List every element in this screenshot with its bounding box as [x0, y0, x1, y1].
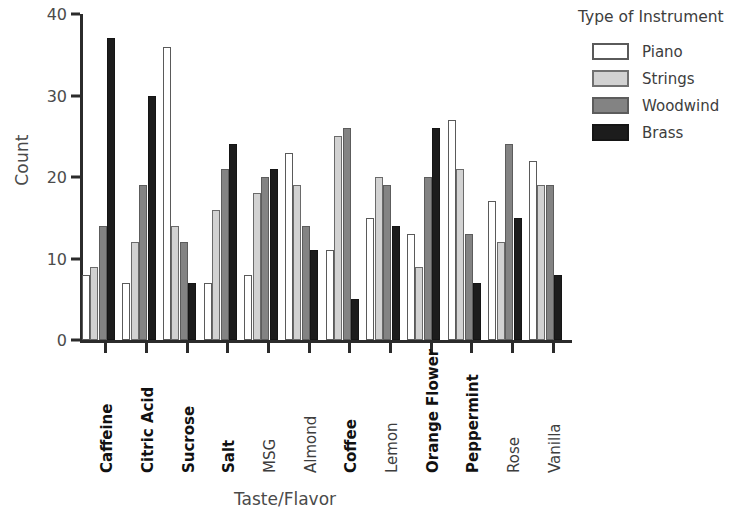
legend-title: Type of Instrument — [578, 8, 733, 26]
legend-swatch — [592, 124, 629, 141]
bar — [392, 226, 400, 340]
bar — [148, 96, 156, 341]
x-tick-mark — [348, 343, 351, 353]
x-tick-mark — [389, 343, 392, 353]
bar-group — [488, 14, 521, 340]
y-axis-title: Count — [12, 105, 32, 215]
bar — [473, 283, 481, 340]
bar — [383, 185, 391, 340]
y-tick-mark — [71, 339, 80, 342]
bar — [293, 185, 301, 340]
y-tick-label: 40 — [33, 5, 67, 24]
y-tick-mark — [71, 13, 80, 16]
x-tick-label: Salt — [220, 440, 238, 473]
bar — [448, 120, 456, 340]
x-tick-mark — [186, 343, 189, 353]
bar — [122, 283, 130, 340]
bar — [366, 218, 374, 340]
legend-label: Strings — [642, 70, 695, 88]
x-tick-label: Peppermint — [464, 374, 482, 473]
bar — [456, 169, 464, 340]
bar — [99, 226, 107, 340]
bar-group — [407, 14, 440, 340]
bar — [188, 283, 196, 340]
legend-entries: PianoStringsWoodwindBrass — [578, 38, 733, 146]
legend-swatch — [592, 43, 629, 60]
bar-group — [285, 14, 318, 340]
x-axis-line — [80, 340, 572, 343]
bar — [302, 226, 310, 340]
bar — [244, 275, 252, 340]
bar — [139, 185, 147, 340]
bar — [497, 242, 505, 340]
bar — [171, 226, 179, 340]
legend-swatch — [592, 97, 629, 114]
bar — [310, 250, 318, 340]
bar — [204, 283, 212, 340]
x-tick-mark — [104, 343, 107, 353]
legend-label: Piano — [642, 43, 683, 61]
x-tick-label: Orange Flower — [424, 349, 442, 473]
x-tick-label: Caffeine — [98, 404, 116, 473]
x-tick-mark — [470, 343, 473, 353]
bar — [554, 275, 562, 340]
bar-group — [326, 14, 359, 340]
bar — [424, 177, 432, 340]
legend-label: Woodwind — [642, 97, 719, 115]
legend-entry: Piano — [592, 38, 733, 65]
bar — [546, 185, 554, 340]
y-tick-label: 20 — [33, 168, 67, 187]
bar — [221, 169, 229, 340]
x-tick-mark — [145, 343, 148, 353]
x-tick-label: Rose — [505, 437, 523, 473]
x-tick-label: MSG — [261, 439, 279, 473]
bar — [537, 185, 545, 340]
bar — [82, 275, 90, 340]
x-tick-mark — [552, 343, 555, 353]
y-tick-mark — [71, 257, 80, 260]
bar-chart: Count 010203040 CaffeineCitric AcidSucro… — [0, 0, 733, 519]
legend: Type of Instrument PianoStringsWoodwindB… — [578, 8, 733, 146]
x-tick-mark — [308, 343, 311, 353]
y-tick-label: 0 — [33, 331, 67, 350]
bar — [505, 144, 513, 340]
legend-entry: Woodwind — [592, 92, 733, 119]
bar — [488, 201, 496, 340]
x-tick-label: Vanilla — [546, 424, 564, 474]
bar — [326, 250, 334, 340]
bar — [415, 267, 423, 340]
x-tick-label: Citric Acid — [139, 387, 157, 473]
bar — [514, 218, 522, 340]
bar-group — [244, 14, 277, 340]
legend-swatch — [592, 70, 629, 87]
x-tick-label: Lemon — [383, 422, 401, 473]
bar-group — [529, 14, 562, 340]
bar — [465, 234, 473, 340]
bar-group — [366, 14, 399, 340]
bar-group — [163, 14, 196, 340]
bar — [163, 47, 171, 340]
x-axis-title: Taste/Flavor — [0, 489, 570, 509]
x-tick-mark — [267, 343, 270, 353]
x-tick-label: Sucrose — [180, 406, 198, 473]
bar — [212, 210, 220, 340]
bar — [343, 128, 351, 340]
bar — [90, 267, 98, 340]
bar-group — [122, 14, 155, 340]
bar — [261, 177, 269, 340]
y-tick-mark — [71, 176, 80, 179]
x-tick-mark — [226, 343, 229, 353]
y-tick-label: 10 — [33, 249, 67, 268]
y-tick-mark — [71, 94, 80, 97]
bar — [351, 299, 359, 340]
bar — [253, 193, 261, 340]
y-tick-label: 30 — [33, 86, 67, 105]
bar — [270, 169, 278, 340]
bar — [334, 136, 342, 340]
legend-entry: Strings — [592, 65, 733, 92]
bar-group — [204, 14, 237, 340]
bar — [375, 177, 383, 340]
bar — [180, 242, 188, 340]
bar — [107, 38, 115, 340]
x-tick-label: Coffee — [342, 419, 360, 473]
